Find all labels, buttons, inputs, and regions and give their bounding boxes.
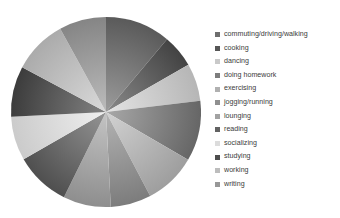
legend-item[interactable]: commuting/driving/walking	[215, 28, 337, 42]
legend-swatch-icon	[215, 168, 220, 173]
legend-item[interactable]: writing	[215, 178, 337, 192]
legend-item-label: jogging/running	[224, 96, 273, 110]
legend-item[interactable]: jogging/running	[215, 96, 337, 110]
legend-swatch-icon	[215, 59, 220, 64]
legend-swatch-icon	[215, 100, 220, 105]
legend-swatch-icon	[215, 114, 220, 119]
legend-item[interactable]: cooking	[215, 42, 337, 56]
legend-item-label: dancing	[224, 55, 249, 69]
legend-swatch-icon	[215, 87, 220, 92]
pie-chart-figure: commuting/driving/walkingcookingdancingd…	[0, 0, 340, 218]
legend-swatch-icon	[215, 32, 220, 37]
legend-item-label: doing homework	[224, 69, 276, 83]
legend-swatch-icon	[215, 46, 220, 51]
legend-item-label: reading	[224, 123, 248, 137]
pie-plot-area	[7, 12, 207, 213]
legend-item-label: writing	[224, 178, 245, 192]
legend-item-label: exercising	[224, 82, 256, 96]
pie-svg	[7, 12, 207, 213]
legend-item[interactable]: studying	[215, 150, 337, 164]
legend-swatch-icon	[215, 127, 220, 132]
legend-swatch-icon	[215, 182, 220, 187]
legend-item-label: lounging	[224, 110, 251, 124]
legend-swatch-icon	[215, 155, 220, 160]
legend-item-label: cooking	[224, 42, 249, 56]
legend-item[interactable]: working	[215, 164, 337, 178]
pie-slice-group	[11, 17, 201, 207]
legend-item[interactable]: socializing	[215, 137, 337, 151]
legend-item[interactable]: doing homework	[215, 69, 337, 83]
legend-item-label: working	[224, 164, 249, 178]
chart-legend: commuting/driving/walkingcookingdancingd…	[215, 28, 337, 191]
legend-item[interactable]: dancing	[215, 55, 337, 69]
legend-item-label: studying	[224, 150, 251, 164]
legend-item-label: socializing	[224, 137, 257, 151]
legend-swatch-icon	[215, 73, 220, 78]
legend-item[interactable]: exercising	[215, 82, 337, 96]
legend-item[interactable]: lounging	[215, 110, 337, 124]
legend-item[interactable]: reading	[215, 123, 337, 137]
legend-item-label: commuting/driving/walking	[224, 28, 308, 42]
legend-swatch-icon	[215, 141, 220, 146]
